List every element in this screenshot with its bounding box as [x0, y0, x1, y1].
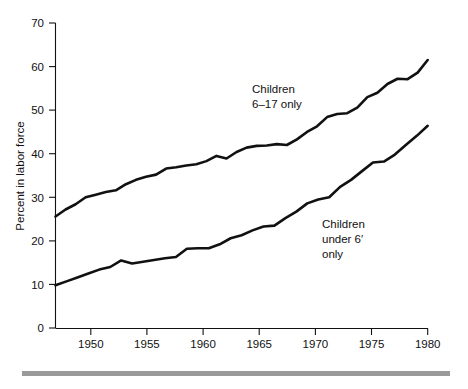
line-chart: 70 60 50 40 30 20 10 0 1950 1955 1960 19…: [0, 0, 468, 389]
x-tick-label-1965: 1965: [246, 338, 272, 350]
annotation-upper-line1: Children: [252, 83, 295, 95]
y-axis-title: Percent in labor force: [14, 121, 26, 230]
y-tick-label-50: 50: [31, 104, 44, 116]
annotation-lower-line1: Children: [322, 218, 365, 230]
chart-figure: 70 60 50 40 30 20 10 0 1950 1955 1960 19…: [0, 0, 468, 389]
y-tick-label-40: 40: [31, 148, 44, 160]
y-tick-label-70: 70: [31, 17, 44, 29]
annotation-lower-line3: only: [322, 248, 343, 260]
y-tick-label-10: 10: [31, 279, 44, 291]
annotation-upper-line2: 6–17 only: [252, 98, 302, 110]
y-tick-label-30: 30: [31, 192, 44, 204]
footer-rule-bar: [22, 371, 450, 376]
x-tick-label-1960: 1960: [190, 338, 216, 350]
y-tick-label-60: 60: [31, 61, 44, 73]
chart-background: [0, 0, 468, 389]
x-tick-label-1975: 1975: [359, 338, 385, 350]
y-tick-label-0: 0: [38, 322, 44, 334]
annotation-lower-line2: under 6′: [322, 233, 363, 245]
y-tick-label-20: 20: [31, 235, 44, 247]
x-tick-label-1955: 1955: [134, 338, 160, 350]
x-tick-label-1950: 1950: [78, 338, 104, 350]
x-tick-label-1980: 1980: [415, 338, 441, 350]
x-tick-label-1970: 1970: [303, 338, 329, 350]
